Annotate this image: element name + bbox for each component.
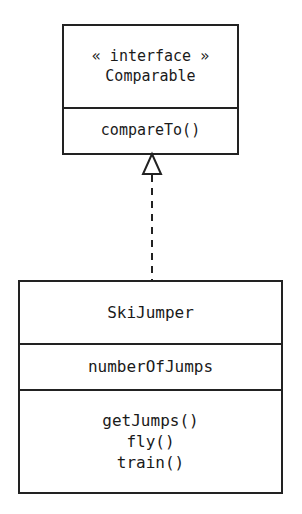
realization-arrow-icon [130, 150, 174, 286]
class-operation-train: train() [117, 452, 184, 473]
interface-stereotype-label: « interface » [92, 47, 209, 67]
interface-header-compartment: « interface » Comparable [64, 26, 237, 107]
interface-operation-compareto: compareTo() [101, 121, 200, 141]
interface-operations-compartment: compareTo() [64, 107, 237, 153]
class-attributes-compartment: numberOfJumps [20, 343, 281, 389]
class-operations-compartment: getJumps() fly() train() [20, 389, 281, 492]
class-name-label: SkiJumper [107, 302, 194, 323]
class-name-compartment: SkiJumper [20, 282, 281, 343]
hollow-triangle-arrowhead [143, 154, 161, 174]
uml-class-diagram: « interface » Comparable compareTo() Ski… [0, 0, 302, 514]
realization-connector[interactable] [130, 150, 174, 286]
interface-comparable-box[interactable]: « interface » Comparable compareTo() [62, 24, 239, 155]
class-operation-fly: fly() [126, 431, 174, 452]
class-skijumper-box[interactable]: SkiJumper numberOfJumps getJumps() fly()… [18, 280, 283, 494]
class-operation-getjumps: getJumps() [102, 410, 198, 431]
interface-name-label: Comparable [105, 67, 195, 87]
class-attribute-numberofjumps: numberOfJumps [88, 356, 213, 377]
